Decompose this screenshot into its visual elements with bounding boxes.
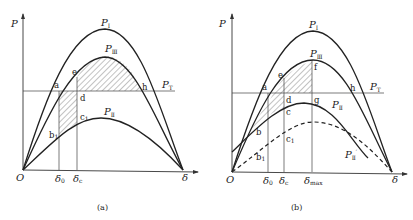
panel-a: P O δ PI PⅢ PⅡ PT a e d c1 b1 h δ0 δc (a… [10, 13, 199, 212]
label-PI-a: PI [100, 17, 111, 29]
point-g-b: g [314, 95, 320, 105]
point-e-b: e [278, 70, 283, 80]
y-axis-label-a: P [10, 18, 18, 29]
label-PII-b: PⅡ [331, 99, 343, 111]
caption-b: (b) [291, 203, 302, 212]
point-b-b: b [256, 127, 262, 137]
point-b1-a: b1 [49, 130, 58, 140]
label-PIII-b: PⅢ [309, 48, 323, 60]
label-PI-b: PI [308, 19, 319, 31]
tick-deltac-b: δc [279, 175, 289, 186]
x-axis-b [232, 172, 407, 174]
x-axis-arrow-icon [402, 172, 408, 176]
power-angle-diagrams: P O δ PI PⅢ PⅡ PT a e d c1 b1 h δ0 δc (a… [0, 0, 413, 220]
tick-delta0-b: δ0 [263, 175, 273, 186]
x-axis-arrow-icon [193, 170, 199, 174]
tick-deltac-a: δc [73, 173, 83, 184]
label-PIII-a: PⅢ [104, 43, 118, 55]
label-PT-b: PT [369, 81, 381, 93]
tick-delta0-a: δ0 [55, 173, 65, 184]
point-c-b: c [286, 107, 291, 117]
y-axis-label-b: P [218, 18, 226, 29]
point-d-a: d [80, 93, 86, 103]
point-c1-a: c1 [80, 112, 89, 122]
y-axis-arrow-icon [21, 13, 25, 19]
point-b1-b: b1 [256, 152, 265, 162]
origin-label-b: O [226, 174, 234, 185]
label-PII-a: PⅡ [103, 106, 115, 118]
point-h-b: h [350, 83, 356, 93]
caption-a: (a) [97, 203, 108, 212]
tick-deltamax-b: δmax [304, 175, 323, 186]
y-axis-arrow-icon [230, 13, 234, 19]
point-e-a: e [72, 67, 77, 77]
label-PIIprime-b: PⅡ′ [344, 148, 358, 161]
x-axis-label-a: δ [182, 172, 188, 183]
acceleration-area-a [59, 91, 77, 135]
point-f-b: f [314, 62, 318, 72]
panel-b: P O δ PI PⅢ PⅡ PⅡ′ PT a e f d g c c1 b b… [218, 13, 408, 212]
curve-PI-a [23, 29, 183, 170]
label-PT-a: PT [161, 79, 173, 91]
point-h-a: h [142, 82, 148, 92]
point-a-b: a [262, 82, 267, 92]
point-a-a: a [54, 80, 59, 90]
x-axis-label-b: δ [392, 174, 398, 185]
point-c1-b: c1 [286, 134, 295, 144]
point-d-b: d [286, 95, 292, 105]
curve-PII-a [23, 118, 183, 170]
origin-label-a: O [16, 172, 24, 183]
x-axis-a [23, 170, 198, 172]
deceleration-area-a [77, 56, 142, 91]
